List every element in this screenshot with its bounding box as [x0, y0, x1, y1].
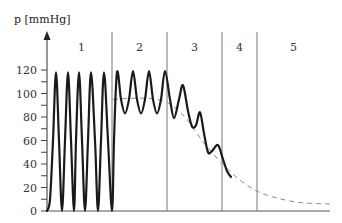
y-tick-label: 60: [23, 135, 37, 148]
phase-dividers: [112, 32, 257, 211]
phase-label-5: 5: [290, 41, 297, 54]
y-tick-label: 120: [16, 64, 37, 77]
y-tick-label: 0: [30, 205, 37, 218]
y-tick-label: 20: [23, 182, 37, 195]
y-tick-label: 40: [23, 158, 37, 171]
phase-label-1: 1: [78, 41, 85, 54]
phase-label-3: 3: [191, 41, 198, 54]
pressure-oscillation-line: [47, 71, 231, 211]
phase-labels: 12345: [78, 41, 297, 54]
y-axis-title: p [mmHg]: [14, 13, 71, 26]
phase-label-2: 2: [136, 41, 143, 54]
phase-label-4: 4: [236, 41, 243, 54]
y-tick-label: 100: [16, 88, 37, 101]
y-axis-arrow-icon: [44, 31, 51, 40]
y-tick-label: 80: [23, 111, 37, 124]
blood-pressure-chart: 020406080100120 12345 p [mmHg]: [0, 0, 342, 223]
